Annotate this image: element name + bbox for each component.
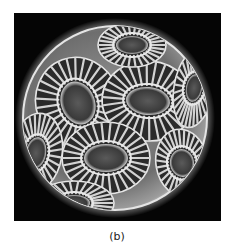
radial-ridge [76, 213, 78, 221]
figure-caption: (b) [0, 230, 234, 243]
radial-ridge [38, 207, 57, 211]
coccolithophore-illustration [14, 13, 221, 221]
radial-ridge [62, 213, 68, 221]
radial-ridge [36, 199, 57, 201]
radial-ridge [14, 160, 25, 174]
radial-ridge [14, 156, 24, 166]
central-area [116, 36, 148, 54]
radial-ridge [22, 169, 29, 189]
radial-ridge [14, 163, 25, 180]
micrograph-image [14, 13, 221, 221]
radial-ridge [80, 213, 86, 221]
radial-ridge [18, 166, 28, 185]
radial-ridge [55, 212, 66, 221]
radial-ridge [27, 170, 32, 191]
radial-ridge [70, 213, 72, 221]
radial-ridge [42, 209, 59, 215]
radial-ridge [36, 205, 57, 207]
radial-ridge [48, 210, 62, 218]
central-area [84, 144, 128, 172]
